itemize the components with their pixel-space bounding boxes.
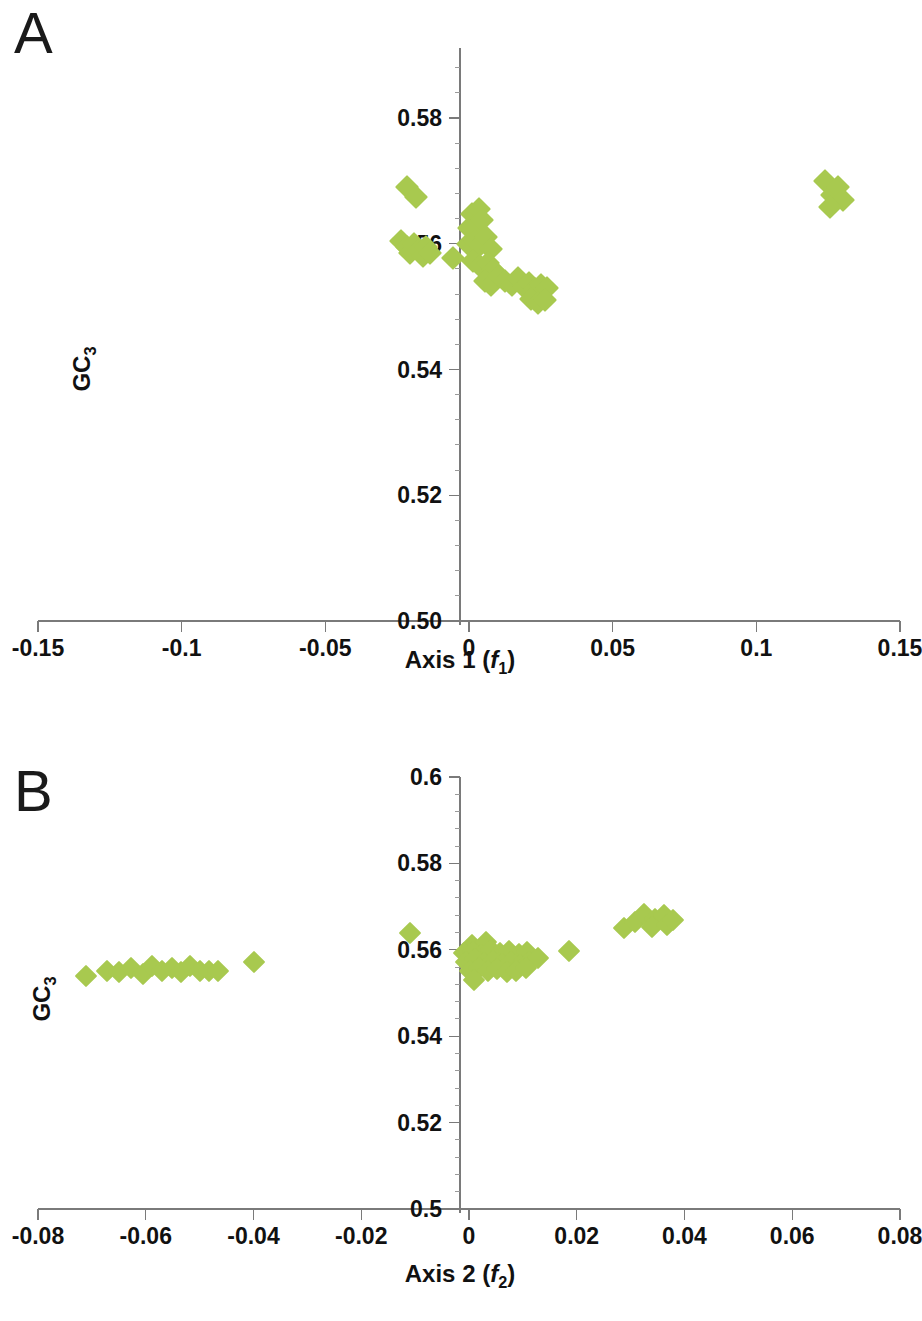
x-tick-label: 0.02 xyxy=(554,1225,599,1248)
x-tick-label: 0.15 xyxy=(878,637,922,660)
x-tick-label: -0.02 xyxy=(335,1225,387,1248)
y-tick-label: 0.52 xyxy=(342,484,442,507)
panel-a-x-axis-title-prefix: Axis 1 ( xyxy=(405,646,490,673)
x-tick-label: -0.06 xyxy=(120,1225,172,1248)
y-tick-label: 0.58 xyxy=(342,852,442,875)
y-tick-label: 0.6 xyxy=(342,766,442,789)
x-tick-label: -0.15 xyxy=(12,637,64,660)
y-tick-label: 0.52 xyxy=(342,1111,442,1134)
x-tick-label: 0.05 xyxy=(590,637,635,660)
panel-a-plot-canvas xyxy=(0,0,921,700)
panel-b-x-axis-title-prefix: Axis 2 ( xyxy=(405,1260,490,1287)
y-tick-label: 0.56 xyxy=(342,938,442,961)
panel-a: A GC3 -0.15-0.1-0.0500.050.10.150.500.52… xyxy=(0,0,921,710)
panel-a-x-axis-title: Axis 1 (f1) xyxy=(405,648,515,676)
x-tick-label: -0.08 xyxy=(12,1225,64,1248)
x-tick-label: -0.05 xyxy=(299,637,351,660)
x-tick-label: 0.04 xyxy=(662,1225,707,1248)
panel-b: B GC3 -0.08-0.06-0.04-0.0200.020.040.060… xyxy=(0,740,921,1321)
panel-a-x-axis-title-suffix: ) xyxy=(507,646,515,673)
x-tick-label: 0.06 xyxy=(770,1225,815,1248)
x-tick-label: 0.08 xyxy=(878,1225,922,1248)
panel-b-x-axis-title: Axis 2 (f2) xyxy=(405,1262,515,1290)
y-tick-label: 0.5 xyxy=(342,1198,442,1221)
panel-b-x-axis-title-suffix: ) xyxy=(507,1260,515,1287)
x-tick-label: 0 xyxy=(463,1225,476,1248)
y-tick-label: 0.54 xyxy=(342,1025,442,1048)
x-tick-label: -0.04 xyxy=(227,1225,279,1248)
x-tick-label: 0.1 xyxy=(740,637,772,660)
y-tick-label: 0.50 xyxy=(342,610,442,633)
y-tick-label: 0.54 xyxy=(342,358,442,381)
y-tick-label: 0.58 xyxy=(342,107,442,130)
x-tick-label: -0.1 xyxy=(162,637,202,660)
